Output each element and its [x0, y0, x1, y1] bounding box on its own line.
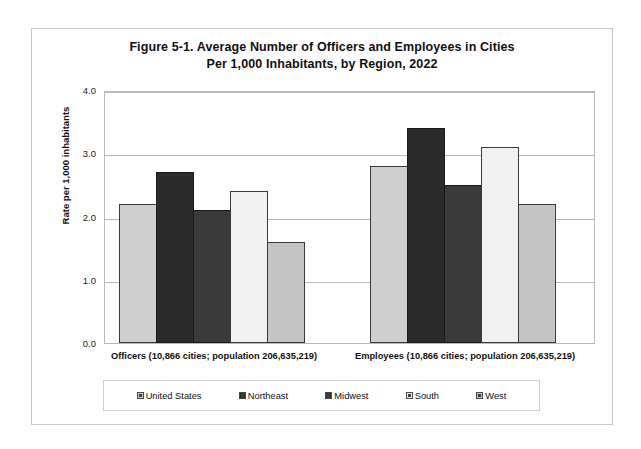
legend-swatch-icon — [406, 392, 413, 399]
legend-item[interactable]: Northeast — [239, 391, 288, 401]
legend-swatch-icon — [239, 392, 246, 399]
bar — [481, 147, 519, 343]
x-axis-group-label: Employees (10,866 cities; population 206… — [315, 351, 615, 361]
y-axis-tick-label: 3.0 — [83, 148, 96, 159]
y-axis-tick-label: 0.0 — [83, 338, 96, 349]
chart-title-line-2: Per 1,000 Inhabitants, by Region, 2022 — [32, 56, 612, 73]
bar — [518, 204, 556, 343]
legend-item[interactable]: South — [406, 391, 439, 401]
legend-swatch-icon — [325, 392, 332, 399]
legend-item[interactable]: Midwest — [325, 391, 368, 401]
bar — [193, 210, 231, 343]
chart-title: Figure 5-1. Average Number of Officers a… — [32, 39, 612, 73]
bar — [370, 166, 408, 343]
bar-group — [370, 92, 556, 343]
bar — [267, 242, 305, 343]
figure-frame: Figure 5-1. Average Number of Officers a… — [31, 28, 613, 425]
y-axis-tick-label: 4.0 — [83, 85, 96, 96]
y-axis-ticks: 0.01.02.03.04.0 — [32, 91, 104, 344]
legend-label: Midwest — [334, 391, 368, 401]
chart-legend: United StatesNortheastMidwestSouthWest — [103, 380, 540, 411]
legend-label: United States — [146, 391, 202, 401]
bar — [230, 191, 268, 343]
y-axis-tick-label: 2.0 — [83, 212, 96, 223]
legend-label: West — [485, 391, 506, 401]
legend-item[interactable]: United States — [137, 391, 202, 401]
bar — [407, 128, 445, 343]
legend-label: South — [415, 391, 439, 401]
plot-area: Officers (10,866 cities; population 206,… — [104, 91, 595, 344]
y-axis-tick-label: 1.0 — [83, 275, 96, 286]
bar — [444, 185, 482, 343]
bar-group — [119, 92, 305, 343]
chart-title-line-1: Figure 5-1. Average Number of Officers a… — [32, 39, 612, 56]
legend-swatch-icon — [476, 392, 483, 399]
legend-item[interactable]: West — [476, 391, 506, 401]
bar — [119, 204, 157, 343]
legend-label: Northeast — [248, 391, 288, 401]
legend-swatch-icon — [137, 392, 144, 399]
bar — [156, 172, 194, 343]
